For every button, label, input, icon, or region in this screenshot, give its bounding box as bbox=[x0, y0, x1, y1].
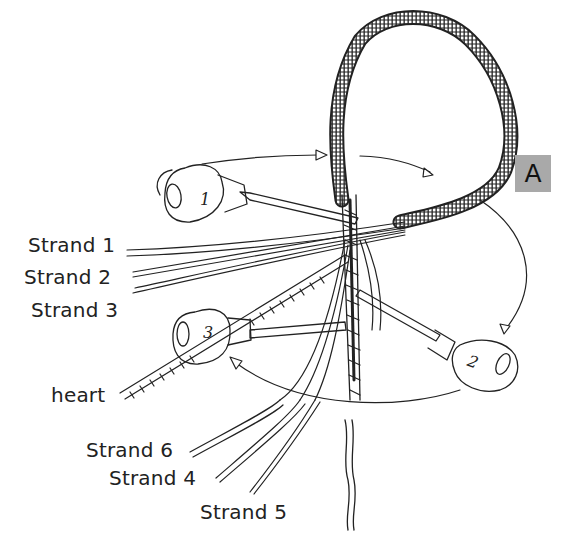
fid-1-number: 1 bbox=[200, 190, 210, 209]
heart-strand bbox=[120, 255, 348, 399]
figure-badge: A bbox=[515, 155, 551, 192]
label-strand-2: Strand 2 bbox=[24, 267, 111, 287]
label-strand-4: Strand 4 bbox=[109, 468, 196, 488]
label-heart: heart bbox=[51, 385, 105, 405]
fid-2-number: 2 bbox=[464, 351, 481, 373]
served-eye-loop bbox=[337, 18, 511, 223]
label-strand-6: Strand 6 bbox=[86, 440, 173, 460]
label-strand-1: Strand 1 bbox=[28, 235, 115, 255]
strands-left bbox=[127, 222, 405, 293]
splice-diagram: 1 3 2 Strand 1 Strand 2 Strand 3 heart S… bbox=[0, 0, 570, 535]
label-strand-5: Strand 5 bbox=[200, 502, 287, 522]
rotation-arrows bbox=[202, 150, 527, 403]
fid-3-number: 3 bbox=[203, 323, 213, 342]
label-strand-3: Strand 3 bbox=[31, 300, 118, 320]
fid-1: 1 bbox=[157, 165, 358, 224]
